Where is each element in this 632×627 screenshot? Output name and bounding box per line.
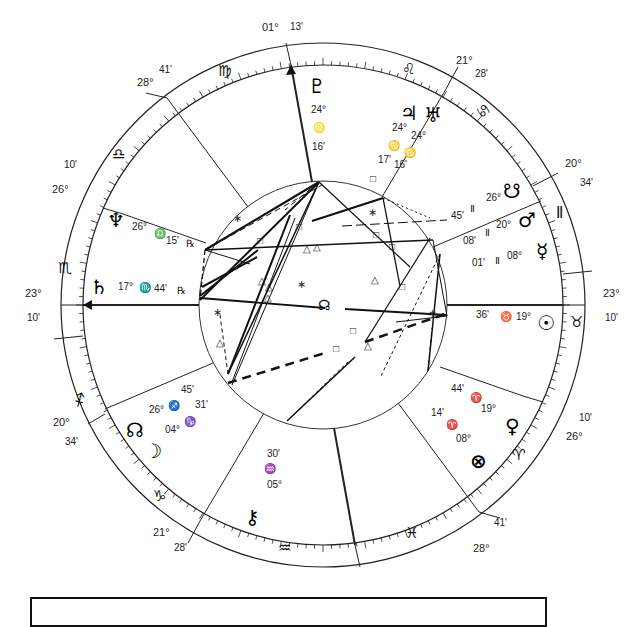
chiron-degree: 05° — [267, 479, 282, 490]
mc-degree: 01° — [262, 21, 279, 33]
mars-icon: ♂ — [518, 208, 536, 232]
dsc-degree: 23° — [603, 287, 620, 299]
jupiter-degree: 24° — [392, 122, 407, 133]
svg-text:△: △ — [264, 292, 272, 303]
moon-sign: ♑ — [184, 415, 196, 428]
svg-text:△: △ — [371, 274, 379, 285]
pluto-minute: 16' — [312, 141, 325, 152]
saturn-sign: ♏ — [139, 281, 151, 294]
pluto-sign: ♌ — [313, 121, 325, 134]
svg-text:□: □ — [373, 229, 379, 240]
svg-text:∗: ∗ — [368, 206, 377, 218]
libra-icon: ♎ — [112, 145, 125, 163]
mc-minute: 13' — [290, 21, 303, 32]
north-node-degree: 26° — [149, 404, 164, 415]
gemini-icon: Ⅱ — [556, 204, 563, 222]
jupiter-sign: ♋ — [388, 139, 400, 152]
chiron-icon: ⚷ — [245, 505, 260, 529]
uranus-minute: 16' — [394, 159, 407, 170]
uranus-icon: ♅ — [424, 103, 442, 127]
leo-icon: ♌ — [402, 60, 415, 78]
neptune-retrograde-icon: ℞ — [186, 238, 195, 249]
asc-degree: 23° — [25, 287, 42, 299]
saturn-retrograde-icon: ℞ — [177, 285, 186, 296]
h11-degree: 28° — [137, 76, 154, 88]
pluto-icon: ♇ — [308, 74, 326, 98]
jupiter-minute: 17' — [378, 154, 391, 165]
mars-degree: 20° — [496, 219, 511, 230]
mercury-minute: 01' — [472, 257, 485, 268]
asc-arrow-icon — [83, 300, 92, 310]
moon-icon: ☽ — [144, 439, 162, 463]
saturn-minute: 44' — [154, 283, 167, 294]
pisces-icon: ♓ — [405, 524, 418, 542]
uranus-degree: 24° — [411, 130, 426, 141]
virgo-icon: ♍ — [218, 62, 231, 80]
svg-text:△: △ — [303, 243, 311, 254]
moon-minute: 31' — [195, 399, 208, 410]
sun-sign: ♉ — [500, 310, 512, 323]
h8-degree: 20° — [565, 157, 582, 169]
svg-text:∗: ∗ — [233, 212, 242, 224]
h6-degree: 26° — [566, 430, 583, 442]
mercury-degree: 08° — [507, 250, 522, 261]
svg-text:□: □ — [389, 241, 395, 252]
legend-box — [30, 597, 547, 627]
mars-sign: Ⅱ — [485, 227, 490, 238]
north-node-icon: ☊ — [126, 418, 144, 442]
sagittarius-icon: ♐ — [69, 389, 90, 411]
mercury-icon: ☿ — [536, 239, 548, 263]
venus-minute: 44' — [451, 383, 464, 394]
h6-minute: 10' — [579, 412, 592, 423]
neptune-degree: 26° — [132, 221, 147, 232]
south-node-icon: ☋ — [503, 179, 521, 203]
mars-minute: 08' — [463, 235, 476, 246]
h12-degree: 26° — [52, 183, 69, 195]
sun-icon: ☉ — [537, 311, 555, 335]
mercury-sign: Ⅱ — [495, 255, 500, 266]
saturn-degree: 17° — [118, 281, 133, 292]
sun-degree: 19° — [516, 311, 531, 322]
aries-icon: ♈ — [512, 446, 525, 464]
chiron-sign: ♒ — [264, 462, 276, 475]
svg-text:△: △ — [364, 340, 372, 351]
h12-minute: 10' — [64, 159, 77, 170]
asc-minute: 10' — [27, 312, 40, 323]
south-node-sign: Ⅱ — [470, 203, 475, 214]
h11-minute: 41' — [159, 64, 172, 75]
svg-text:□: □ — [350, 325, 356, 336]
venus-sign: ♈ — [470, 391, 482, 404]
h5-minute: 41' — [494, 517, 507, 528]
aquarius-icon: ♒ — [278, 539, 291, 557]
h3-degree: 21° — [153, 526, 170, 538]
south-node-degree: 26° — [486, 192, 501, 203]
capricorn-icon: ♑ — [153, 487, 166, 505]
svg-text:□: □ — [399, 281, 405, 292]
uranus-sign: ♋ — [404, 146, 416, 159]
svg-text:□: □ — [333, 343, 339, 354]
scorpio-icon: ♏ — [58, 259, 72, 277]
svg-text:□: □ — [370, 173, 376, 184]
south-node-minute: 45' — [451, 210, 464, 221]
h2-minute: 34' — [65, 436, 78, 447]
dsc-minute: 10' — [605, 312, 618, 323]
svg-text:∗: ∗ — [213, 306, 222, 318]
svg-text:∗: ∗ — [428, 307, 437, 319]
center-node-icon: ☊ — [318, 297, 330, 313]
h8-minute: 34' — [580, 177, 593, 188]
h9-minute: 28' — [475, 68, 488, 79]
fortune-degree: 08° — [456, 433, 471, 444]
taurus-icon: ♉ — [570, 313, 583, 331]
venus-degree: 19° — [481, 403, 496, 414]
h2-degree: 20° — [53, 416, 70, 428]
north-node-minute: 45' — [181, 384, 194, 395]
pluto-degree: 24° — [311, 104, 326, 115]
saturn-icon: ♄ — [90, 275, 108, 299]
neptune-minute: 15' — [166, 235, 179, 246]
neptune-sign: ♎ — [154, 227, 166, 240]
neptune-icon: ♆ — [107, 208, 125, 232]
svg-text:□: □ — [257, 235, 263, 246]
h5-degree: 28° — [473, 542, 490, 554]
chiron-minute: 30' — [267, 448, 280, 459]
